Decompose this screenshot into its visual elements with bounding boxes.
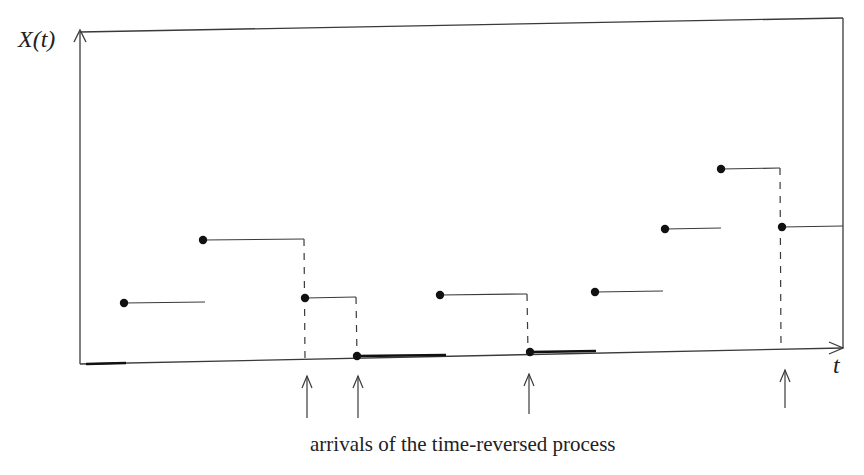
step-line [203,239,304,240]
top-border [80,18,843,32]
step-line [721,168,780,169]
arrival-arrow [353,376,363,418]
x-axis-line [80,348,843,364]
bold-axis-segment [530,351,596,352]
step-line [305,297,356,298]
axis-dot-icon [353,352,361,360]
x-axis-label: t [833,352,840,379]
step-line [665,228,721,229]
step-start-dot-icon [301,294,309,302]
step-start-dot-icon [436,291,444,299]
step-segment [661,225,721,233]
step-line [595,291,663,292]
step-start-dot-icon [120,299,128,307]
arrival-arrow [524,374,534,414]
arrival-arrows [302,370,790,418]
caption: arrivals of the time-reversed process [310,432,616,457]
step-start-dot-icon [778,223,786,231]
axis-dot-icon [526,348,534,356]
step-segment [436,291,528,352]
step-start-dot-icon [591,288,599,296]
step-line [440,294,527,295]
arrival-arrow [302,376,312,418]
y-axis-label: X(t) [18,26,55,53]
bold-axis-segment [86,363,126,364]
arrival-arrow [780,370,790,408]
step-line [782,226,843,227]
dashed-drop-line [527,294,528,352]
step-segment [199,236,305,358]
step-start-dot-icon [717,165,725,173]
step-segment [120,299,205,307]
bold-axis-segment [357,355,446,356]
step-segment [717,165,781,346]
dashed-drop-line [356,297,357,356]
time-reversed-process-diagram [0,0,864,475]
step-segment [301,294,357,356]
step-segment [591,288,663,296]
step-start-dot-icon [199,236,207,244]
dashed-drop-line [780,168,781,346]
step-start-dot-icon [661,225,669,233]
step-function [120,165,843,360]
plot-frame [74,18,843,364]
step-segment [778,223,843,231]
step-line [124,302,205,303]
